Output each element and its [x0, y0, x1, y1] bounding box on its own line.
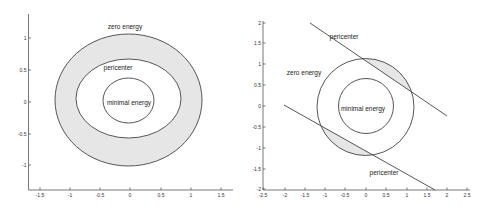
x-tick-label: -0.5 — [341, 192, 350, 198]
x-tick-label: 1.5 — [424, 192, 431, 198]
y-tick-label: 1 — [258, 61, 261, 67]
left-label-pericenter: pericenter — [104, 64, 134, 72]
x-tick-label: 2.5 — [464, 192, 471, 198]
x-tick-label: 0.5 — [383, 192, 390, 198]
left-plot: 10.50-0.5-1 -1.5-1-0.500.511.5 zero ener… — [0, 0, 491, 206]
left-label-zero-energy: zero energy — [108, 23, 143, 31]
x-tick-label: 1 — [406, 192, 409, 198]
y-tick-label: 0 — [258, 103, 261, 109]
right-label-minimal-energy: minimal energy — [341, 105, 386, 113]
x-tick-label: -1.5 — [301, 192, 310, 198]
figure: 10.50-0.5-1 -1.5-1-0.500.511.5 zero ener… — [0, 0, 491, 206]
x-tick-label: -2.5 — [259, 192, 268, 198]
x-tick-label: 0 — [365, 192, 368, 198]
right-label-zero-energy: zero energy — [287, 69, 322, 77]
x-tick-label: -2 — [283, 192, 288, 198]
left-shaded-ring — [0, 0, 491, 206]
y-tick-label: 1.5 — [254, 40, 261, 46]
left-label-minimal-energy: minimal energy — [107, 99, 152, 107]
y-tick-label: -0.5 — [252, 124, 261, 130]
y-tick-label: -2 — [257, 186, 262, 192]
y-tick-label: -1.5 — [252, 166, 261, 172]
y-tick-label: 2 — [258, 20, 261, 26]
x-tick-label: 2 — [446, 192, 449, 198]
y-tick-label: 0.5 — [254, 82, 261, 88]
y-tick-label: -1 — [257, 145, 262, 151]
x-tick-label: -1 — [323, 192, 328, 198]
right-label-pericenter-top: pericenter — [330, 33, 360, 41]
right-label-pericenter-bottom: pericenter — [370, 169, 400, 177]
